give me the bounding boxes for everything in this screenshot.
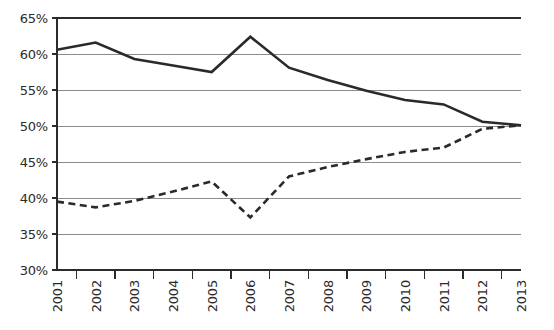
- x-axis-tick-label: 2010: [398, 280, 413, 312]
- x-axis-tick-label: 2009: [359, 280, 374, 312]
- x-axis-tick-label: 2002: [88, 280, 103, 312]
- x-axis-tick-label: 2006: [243, 280, 258, 312]
- x-axis-tick-label: 2001: [50, 280, 65, 312]
- line-chart: 65%60%55%50%45%40%35%30% 200120022003200…: [0, 0, 554, 330]
- x-axis-tick-label: 2007: [282, 280, 297, 312]
- x-axis-tick-label: 2008: [320, 280, 335, 312]
- x-axis: 2001200220032004200520062007200820092010…: [0, 0, 554, 330]
- x-axis-tick-label: 2003: [127, 280, 142, 312]
- x-axis-tick-label: 2005: [204, 280, 219, 312]
- x-axis-tick-label: 2004: [166, 280, 181, 312]
- x-axis-tick-label: 2012: [475, 280, 490, 312]
- x-axis-tick-label: 2013: [514, 280, 529, 312]
- x-axis-tick-label: 2011: [436, 280, 451, 312]
